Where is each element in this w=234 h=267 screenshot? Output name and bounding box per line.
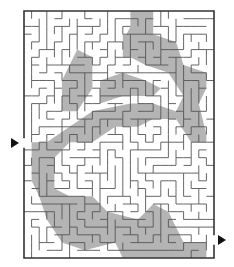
maze-board: [0, 0, 234, 267]
start-arrow-icon: [11, 138, 19, 148]
end-arrow-icon: [218, 235, 226, 245]
